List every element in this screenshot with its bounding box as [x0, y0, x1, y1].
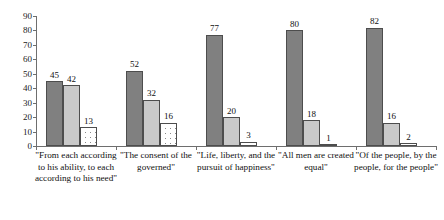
y-axis-tick-label: 60 — [23, 55, 32, 64]
bar-value-label: 82 — [362, 17, 387, 26]
bar — [143, 100, 160, 146]
bar — [160, 123, 177, 146]
y-axis-tick — [33, 59, 37, 60]
y-axis-tick-label: 50 — [23, 70, 32, 79]
bar-value-label: 2 — [396, 133, 421, 142]
y-axis-tick — [33, 88, 37, 89]
bar-value-label: 1 — [316, 134, 341, 143]
bar — [400, 143, 417, 146]
y-axis-tick — [33, 117, 37, 118]
y-axis-tick — [33, 16, 37, 17]
bar-value-label: 20 — [219, 107, 244, 116]
bar-value-label: 3 — [236, 131, 261, 140]
category-label: "From each according to his ability, to … — [33, 150, 119, 185]
category-label: "All men are created equal" — [273, 150, 359, 173]
y-axis-tick — [33, 45, 37, 46]
category-label: "Life, liberty, and the pursuit of happi… — [193, 150, 279, 173]
category-label: "Of the people, by the people, for the p… — [353, 150, 439, 173]
bar-value-label: 18 — [299, 110, 324, 119]
bar-value-label: 16 — [379, 112, 404, 121]
y-axis-line — [36, 16, 37, 146]
bar-value-label: 16 — [156, 112, 181, 121]
y-axis-tick — [33, 74, 37, 75]
y-axis-tick — [33, 103, 37, 104]
x-axis-line — [36, 146, 436, 147]
bar-group: 523216 — [126, 16, 177, 146]
bar — [206, 35, 223, 146]
bar-value-label: 13 — [76, 117, 101, 126]
bar — [126, 71, 143, 146]
bar-group: 82162 — [366, 16, 417, 146]
y-axis-tick — [33, 30, 37, 31]
plot-area: 454213523216772038018182162 — [36, 10, 436, 150]
bar — [80, 127, 97, 146]
bar-value-label: 77 — [202, 24, 227, 33]
y-axis-tick-labels: 0102030405060708090 — [0, 10, 32, 150]
y-axis-tick-label: 20 — [23, 113, 32, 122]
y-axis-tick-label: 90 — [23, 12, 32, 21]
y-axis-tick-label: 30 — [23, 99, 32, 108]
bar-value-label: 52 — [122, 60, 147, 69]
bar — [240, 142, 257, 146]
bar-value-label: 42 — [59, 75, 84, 84]
bar — [320, 144, 337, 146]
bar-group: 80181 — [286, 16, 337, 146]
category-labels: "From each according to his ability, to … — [36, 150, 436, 218]
y-axis-tick — [33, 132, 37, 133]
y-axis-tick-label: 80 — [23, 26, 32, 35]
y-axis-tick-label: 10 — [23, 128, 32, 137]
bar — [63, 85, 80, 146]
bar-group: 454213 — [46, 16, 97, 146]
bar-chart: 0102030405060708090 45421352321677203801… — [0, 0, 444, 220]
bar — [46, 81, 63, 146]
bar — [366, 28, 383, 146]
y-axis-tick-label: 40 — [23, 84, 32, 93]
y-axis-tick-label: 70 — [23, 41, 32, 50]
bar-group: 77203 — [206, 16, 257, 146]
bar-value-label: 32 — [139, 89, 164, 98]
y-axis-tick-label: 0 — [28, 142, 33, 151]
category-label: "The consent of the governed" — [113, 150, 199, 173]
bar-value-label: 80 — [282, 20, 307, 29]
bar — [286, 30, 303, 146]
